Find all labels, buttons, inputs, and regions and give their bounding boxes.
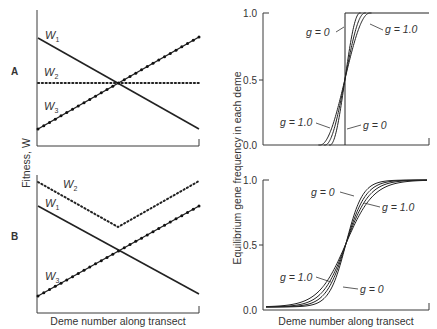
w3-b-bead bbox=[117, 250, 120, 253]
arrow-g1-lower-a bbox=[316, 123, 330, 128]
annotation-g1-lower-a: g = 1.0 bbox=[280, 116, 313, 128]
w3-b-bead bbox=[94, 262, 97, 265]
w3-b-bead bbox=[134, 240, 137, 243]
w3-a-bead bbox=[129, 75, 132, 78]
annotation-g1-lower-b: g = 1.0 bbox=[280, 271, 313, 283]
w3-b-bead bbox=[192, 208, 195, 211]
w3-b-bead bbox=[37, 295, 40, 298]
fitness-axis-label: Fitness, W bbox=[20, 138, 32, 188]
arrow-g0-lower-b bbox=[343, 287, 358, 289]
x-axis-label-left: Deme number along transect bbox=[50, 315, 185, 327]
w1-label-a: W1 bbox=[45, 29, 59, 43]
w3-b-bead bbox=[42, 291, 45, 294]
w3-b-bead bbox=[83, 269, 86, 272]
w3-a-bead bbox=[100, 91, 103, 94]
w3-a-bead bbox=[65, 111, 68, 114]
w3-a-bead bbox=[134, 72, 137, 75]
frequency-panel-b: 1.0 0.5 0.0 g = 0 g = 1.0 g = 1.0 g = 0 … bbox=[243, 175, 429, 327]
w3-a-bead bbox=[140, 68, 143, 71]
annotation-g0-lower-b: g = 0 bbox=[360, 283, 384, 295]
tick-label-05-b: 0.5 bbox=[243, 240, 257, 251]
w3-a-bead bbox=[157, 59, 160, 62]
w3-a-bead bbox=[42, 124, 45, 127]
w3-b-bead bbox=[140, 237, 143, 240]
w3-b-bead bbox=[163, 224, 166, 227]
fitness-panel-b: W2 W1 W3 Deme number along transect bbox=[37, 175, 201, 327]
w3-a-bead bbox=[111, 85, 114, 88]
annotation-g0-upper-b: g = 0 bbox=[311, 186, 335, 198]
w3-a-bead bbox=[77, 105, 80, 108]
w3-a-bead bbox=[117, 82, 120, 85]
w3-b-bead bbox=[157, 227, 160, 230]
w3-b-bead bbox=[129, 243, 132, 246]
arrow-g0-upper-a bbox=[336, 27, 344, 32]
arrow-g0-upper-b bbox=[340, 192, 354, 196]
w3-a-bead bbox=[163, 55, 166, 58]
fitness-panel-a: W1 W2 W3 bbox=[37, 10, 201, 146]
w3-b-bead bbox=[71, 275, 74, 278]
w3-a-bead bbox=[146, 65, 149, 68]
w3-b-bead bbox=[198, 205, 201, 208]
w3-a-bead bbox=[169, 52, 172, 55]
frequency-axis-label: Equilibrium gene frequency in each deme bbox=[231, 71, 243, 264]
w3-a-bead bbox=[192, 39, 195, 42]
w3-b-bead bbox=[146, 233, 149, 236]
w3-b-bead bbox=[54, 285, 57, 288]
w3-a-bead bbox=[94, 95, 97, 98]
w3-a-bead bbox=[180, 45, 183, 48]
w3-a-bead bbox=[37, 128, 40, 131]
w3-label-a: W3 bbox=[44, 100, 58, 114]
panel-label-a: A bbox=[11, 66, 18, 77]
panel-label-b: B bbox=[11, 231, 18, 242]
w3-b-bead bbox=[88, 266, 91, 269]
w3-b-bead bbox=[111, 253, 114, 256]
x-axis-label-right: Deme number along transect bbox=[278, 315, 413, 327]
w3-b-bead bbox=[100, 259, 103, 262]
annotation-g1-upper-b: g = 1.0 bbox=[382, 201, 415, 213]
w3-b-bead bbox=[106, 256, 109, 259]
w3-a-bead bbox=[123, 78, 126, 81]
w2-label-b: W2 bbox=[63, 178, 77, 192]
w3-b-bead bbox=[152, 230, 155, 233]
w3-a-bead bbox=[186, 42, 189, 45]
annotation-g0-lower-a: g = 0 bbox=[363, 119, 387, 131]
arrow-g1-upper-a bbox=[370, 24, 383, 30]
w3-b-bead bbox=[48, 288, 51, 291]
figure: A B Fitness, W W1 W2 W3 W2 W1 W3 Deme nu… bbox=[0, 0, 437, 329]
w3-a-bead bbox=[106, 88, 109, 91]
w3-a-bead bbox=[48, 121, 51, 124]
annotation-g0-upper-a: g = 0 bbox=[306, 26, 330, 38]
tick-label-1-b: 1.0 bbox=[243, 175, 257, 186]
arrow-g0-lower-a bbox=[347, 125, 361, 129]
frequency-panel-a: 1.0 0.5 0.0 g = 0 g = 1.0 g = 1.0 g = 0 bbox=[243, 8, 429, 151]
tick-label-1-a: 1.0 bbox=[243, 8, 257, 19]
w3-a-bead bbox=[152, 62, 155, 65]
w3-b-bead bbox=[60, 282, 63, 285]
tick-label-0-b: 0.0 bbox=[243, 305, 257, 316]
w3-a-bead bbox=[88, 98, 91, 101]
w3-b-bead bbox=[65, 278, 68, 281]
w3-a-bead bbox=[198, 36, 201, 39]
annotation-g1-upper-a: g = 1.0 bbox=[385, 23, 418, 35]
w3-a-bead bbox=[175, 49, 178, 52]
w3-b-bead bbox=[77, 272, 80, 275]
w3-a-bead bbox=[54, 118, 57, 121]
w3-b-bead bbox=[180, 214, 183, 217]
w3-a-bead bbox=[71, 108, 74, 111]
w3-b-bead bbox=[123, 246, 126, 249]
w3-b-bead bbox=[175, 217, 178, 220]
w3-a-bead bbox=[60, 114, 63, 117]
w3-b-bead bbox=[186, 211, 189, 214]
arrow-g1-upper-b bbox=[364, 203, 380, 207]
w2-label-a: W2 bbox=[44, 66, 58, 80]
w3-a-bead bbox=[83, 101, 86, 104]
w3-label-b: W3 bbox=[45, 270, 59, 284]
w3-b-bead bbox=[169, 221, 172, 224]
axes-a-left bbox=[37, 10, 199, 146]
w1-label-b: W1 bbox=[45, 197, 59, 211]
tick-label-0-a: 0.0 bbox=[243, 140, 257, 151]
tick-label-05-a: 0.5 bbox=[243, 75, 257, 86]
